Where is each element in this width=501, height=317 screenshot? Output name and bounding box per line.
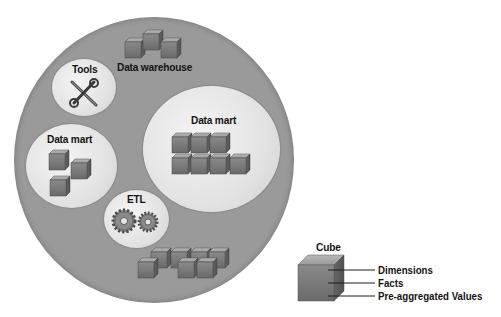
data-mart-left-label: Data mart	[47, 133, 92, 145]
bottom-cubes-icon	[138, 248, 238, 284]
legend-leader-lines	[325, 265, 377, 301]
data-mart-left-cubes-icon	[49, 150, 97, 200]
legend-item-dimensions: Dimensions	[378, 264, 433, 276]
data-warehouse-label: Data warehouse	[117, 61, 192, 73]
tools-label: Tools	[72, 63, 97, 75]
data-mart-right-label: Data mart	[191, 114, 236, 126]
wrench-screwdriver-icon	[68, 78, 100, 108]
legend-title: Cube	[316, 241, 341, 253]
legend-item-facts: Facts	[378, 277, 403, 289]
etl-label: ETL	[127, 193, 146, 205]
data-warehouse-cubes-icon	[125, 30, 185, 62]
data-mart-right-cubes-icon	[172, 133, 262, 181]
legend-item-pre-aggregated-values: Pre-aggregated Values	[378, 290, 482, 302]
gears-icon	[110, 207, 162, 237]
